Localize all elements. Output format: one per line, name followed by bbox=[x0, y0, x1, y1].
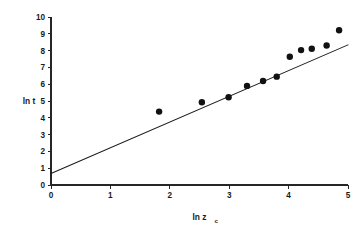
y-tick-label-7: 7 bbox=[40, 63, 45, 72]
fit-line-segment bbox=[51, 45, 348, 174]
data-point-5 bbox=[274, 73, 280, 79]
data-points bbox=[156, 27, 342, 115]
y-tick-label-4: 4 bbox=[40, 114, 45, 123]
regression-line bbox=[51, 45, 348, 174]
data-point-3 bbox=[244, 83, 250, 89]
y-tick-label-5: 5 bbox=[40, 97, 45, 106]
x-tick-label-3: 3 bbox=[227, 191, 232, 200]
data-point-6 bbox=[287, 54, 293, 60]
x-axis: 012345 bbox=[49, 185, 351, 200]
data-point-0 bbox=[156, 108, 162, 114]
data-point-7 bbox=[298, 47, 304, 53]
x-tick-label-0: 0 bbox=[49, 191, 54, 200]
x-tick-label-4: 4 bbox=[286, 191, 291, 200]
y-tick-label-1: 1 bbox=[40, 164, 45, 173]
y-tick-label-9: 9 bbox=[40, 30, 45, 39]
x-tick-label-5: 5 bbox=[346, 191, 351, 200]
y-axis: 012345678910 bbox=[36, 13, 51, 190]
y-tick-label-8: 8 bbox=[40, 47, 45, 56]
data-point-9 bbox=[323, 42, 329, 48]
y-tick-label-2: 2 bbox=[40, 147, 45, 156]
y-axis-title: ln t bbox=[23, 96, 36, 106]
chart-container: 012345678910 012345 ln tln zc bbox=[0, 0, 363, 232]
data-point-1 bbox=[199, 99, 205, 105]
axis-titles: ln tln zc bbox=[23, 96, 219, 224]
y-tick-label-3: 3 bbox=[40, 131, 45, 140]
data-point-2 bbox=[225, 94, 231, 100]
data-point-8 bbox=[309, 46, 315, 52]
y-tick-label-0: 0 bbox=[40, 181, 45, 190]
x-tick-label-2: 2 bbox=[168, 191, 173, 200]
x-axis-title-subscript: c bbox=[215, 217, 219, 224]
y-tick-label-10: 10 bbox=[36, 13, 46, 22]
scatter-plot: 012345678910 012345 ln tln zc bbox=[0, 0, 363, 232]
x-tick-label-1: 1 bbox=[108, 191, 113, 200]
data-point-4 bbox=[260, 78, 266, 84]
x-axis-title: ln z bbox=[193, 212, 207, 222]
y-tick-label-6: 6 bbox=[40, 80, 45, 89]
data-point-10 bbox=[336, 27, 342, 33]
